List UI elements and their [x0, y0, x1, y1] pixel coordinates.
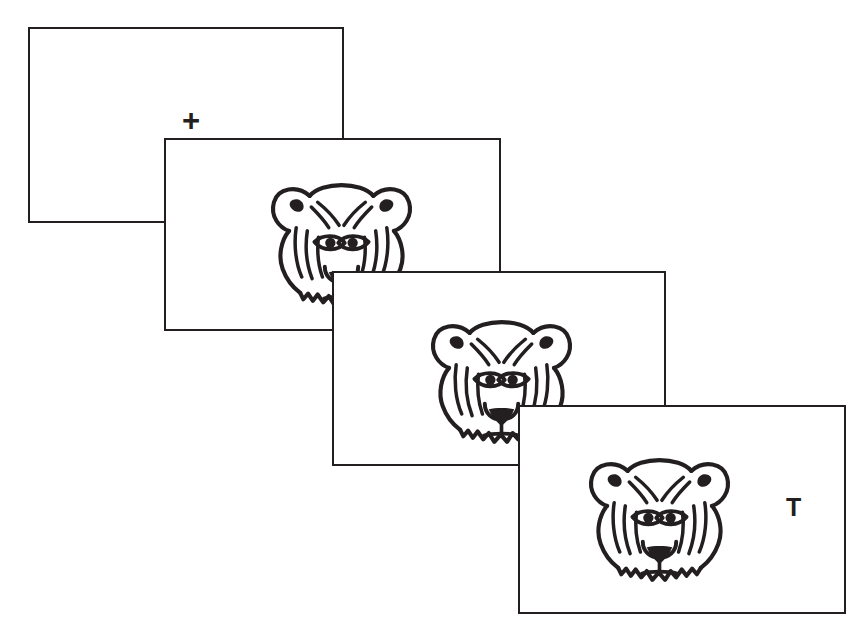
- panel-probe-screen-inner: T: [520, 407, 844, 612]
- panel-probe-screen: T: [518, 405, 846, 614]
- probe-letter-label: T: [786, 495, 801, 520]
- tiger-face-icon: [580, 439, 739, 595]
- figure-canvas: +: [0, 0, 867, 641]
- fixation-cross-icon: +: [182, 105, 200, 136]
